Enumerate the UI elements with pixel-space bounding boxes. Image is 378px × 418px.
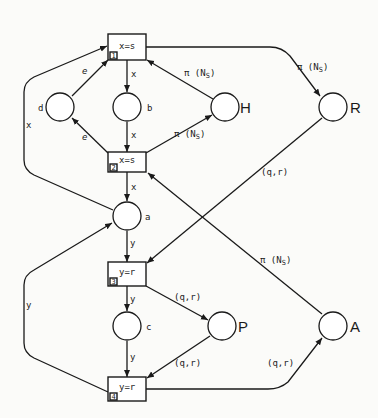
arc-p-to-t4 (147, 336, 210, 378)
place-R: R (319, 93, 361, 121)
diagram-canvas: d b H R a c P A (0, 0, 378, 418)
place-b-circle (113, 93, 141, 121)
arc-h-to-t1 (147, 60, 213, 99)
arc-t1-to-r (146, 47, 320, 96)
place-p-circle (208, 312, 236, 340)
arc-label-t2-a: x (131, 182, 137, 192)
transition-4-guard: y=r (119, 382, 136, 392)
place-c-circle (113, 312, 141, 340)
place-d-label: d (38, 103, 43, 113)
transition-3-guard: y=r (119, 267, 136, 277)
transition-1-guard: x=s (119, 41, 135, 51)
place-a-big-label: A (350, 318, 360, 335)
transition-2: 2 x=s (108, 152, 146, 172)
place-P: P (208, 312, 248, 340)
arc-r-to-t3 (147, 118, 322, 263)
arc-d-to-t1 (72, 60, 108, 96)
arc-label-t2-d: e (82, 132, 87, 142)
arc-label-t4-a: y (26, 300, 32, 310)
place-d-circle (46, 93, 74, 121)
transition-4-number: 4 (112, 393, 116, 401)
place-c: c (113, 312, 151, 340)
arc-label-a-t2: π (NS) (260, 255, 291, 267)
place-p-label: P (238, 318, 248, 335)
arc-label-b-t2: x (131, 130, 137, 140)
arc-label-t4-a-place: (q,r) (267, 358, 294, 368)
transition-1-number: 1 (112, 52, 116, 60)
transition-3: 3 y=r (108, 262, 146, 286)
place-d: d (38, 93, 74, 121)
arc-label-c-t4: y (130, 352, 136, 362)
transition-2-number: 2 (112, 164, 116, 172)
petri-net-diagram: d b H R a c P A (0, 0, 378, 418)
transition-3-number: 3 (112, 278, 116, 286)
place-b: b (113, 93, 152, 121)
place-a: a (113, 202, 150, 230)
arc-label-h-t1: π (NS) (184, 68, 215, 80)
place-r-circle (319, 93, 347, 121)
place-H: H (211, 93, 251, 121)
arc-label-t2-h: π (NS) (174, 129, 205, 141)
place-a-big-circle (319, 312, 347, 340)
place-a-label: a (145, 212, 150, 222)
arc-label-p-t4: (q,r) (174, 358, 201, 368)
place-h-label: H (240, 99, 251, 116)
arc-a-to-t1 (24, 46, 113, 210)
place-h-circle (211, 93, 239, 121)
arc-label-t1-b: x (131, 69, 137, 79)
place-r-label: R (350, 99, 361, 116)
arc-label-t3-p: (q,r) (174, 292, 201, 302)
place-a-circle (113, 202, 141, 230)
place-b-label: b (147, 103, 152, 113)
arc-t4-to-a-place (146, 338, 322, 389)
transition-2-guard: x=s (119, 155, 135, 165)
arc-label-r-t3: (q,r) (261, 167, 288, 177)
transition-4: 4 y=r (108, 377, 146, 401)
arc-t2-to-d (72, 118, 108, 153)
transition-1: 1 x=s (108, 34, 146, 60)
arc-label-d-t1: e (82, 66, 87, 76)
arc-label-a-t1: x (26, 120, 32, 130)
arc-label-a-t3: y (130, 238, 136, 248)
place-A: A (319, 312, 360, 340)
place-c-label: c (146, 322, 151, 332)
arc-label-t3-c: y (130, 294, 136, 304)
arc-t4-to-a (24, 223, 112, 392)
